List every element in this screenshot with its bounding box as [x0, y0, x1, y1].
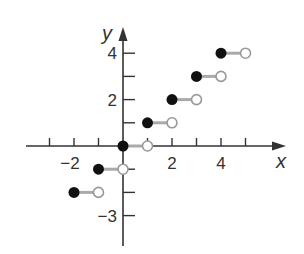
y-tick-label: −3: [98, 207, 117, 226]
open-dot-icon: [118, 164, 128, 174]
y-tick-label: 2: [108, 91, 117, 110]
step-segments: [69, 48, 251, 198]
y-axis-arrow-icon: [119, 27, 128, 41]
closed-dot-icon: [118, 141, 129, 152]
open-dot-icon: [241, 48, 251, 58]
axes: [26, 27, 286, 246]
step-function-chart: −22442−3 x y: [0, 0, 304, 254]
step-segment: [142, 117, 177, 128]
closed-dot-icon: [93, 164, 104, 175]
tick-labels: −22442−3: [60, 44, 225, 225]
step-segment: [118, 141, 153, 152]
step-segment: [69, 187, 104, 198]
x-tick-label: −2: [60, 154, 79, 173]
closed-dot-icon: [142, 117, 153, 128]
x-tick-label: 4: [216, 154, 225, 173]
x-tick-label: 2: [167, 154, 176, 173]
open-dot-icon: [143, 141, 153, 151]
closed-dot-icon: [69, 187, 80, 198]
closed-dot-icon: [191, 71, 202, 82]
closed-dot-icon: [216, 48, 227, 59]
y-tick-label: 4: [108, 44, 117, 63]
y-axis-label: y: [100, 22, 113, 44]
step-segment: [167, 94, 202, 105]
step-segment: [191, 71, 226, 82]
open-dot-icon: [94, 187, 104, 197]
open-dot-icon: [167, 118, 177, 128]
closed-dot-icon: [167, 94, 178, 105]
step-segment: [93, 164, 128, 175]
open-dot-icon: [216, 71, 226, 81]
open-dot-icon: [192, 95, 202, 105]
x-axis-label: x: [275, 150, 287, 172]
step-segment: [216, 48, 251, 59]
